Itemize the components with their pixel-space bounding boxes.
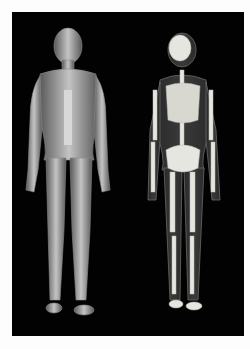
muscular-figure	[26, 28, 110, 315]
skeletal-figure	[148, 33, 220, 310]
anatomy-illustration	[0, 0, 250, 349]
